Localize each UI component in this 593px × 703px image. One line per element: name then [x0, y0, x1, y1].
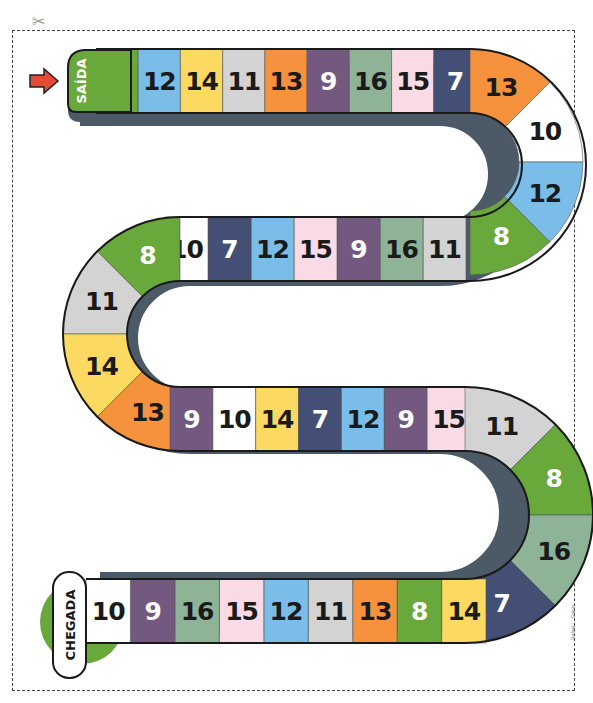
- space-number: 9: [397, 405, 413, 434]
- space-number: 9: [320, 67, 336, 96]
- space-number: 14: [185, 67, 218, 96]
- space-number: 8: [545, 464, 561, 493]
- space-number: 11: [314, 597, 347, 626]
- space-number: 7: [312, 405, 328, 434]
- space-number: 15: [225, 597, 258, 626]
- space-number: 12: [528, 179, 561, 208]
- board-space: 14: [256, 387, 299, 451]
- board-space: 11: [223, 49, 265, 113]
- board-space: 16: [349, 49, 391, 113]
- space-number: 16: [537, 537, 570, 566]
- space-number: 15: [432, 405, 465, 434]
- board-space: 15: [392, 49, 434, 113]
- space-number: 13: [359, 597, 392, 626]
- board-space: 9: [307, 49, 349, 113]
- space-number: 13: [270, 67, 303, 96]
- board-space: 10: [86, 579, 130, 643]
- space-number: 12: [256, 235, 289, 264]
- space-number: 16: [354, 67, 387, 96]
- board-space: 11: [308, 579, 353, 643]
- board-space: 15: [294, 217, 337, 281]
- board-space: 14: [180, 49, 222, 113]
- space-number: 13: [131, 398, 164, 427]
- board-space: 16: [380, 217, 423, 281]
- space-number: 12: [270, 597, 303, 626]
- board-space: 9: [130, 579, 175, 643]
- space-number: 15: [299, 235, 332, 264]
- board-space: 9: [170, 387, 213, 451]
- start-cap: SAÍDA: [68, 50, 131, 122]
- space-number: 9: [144, 597, 160, 626]
- board-space: 15: [427, 387, 470, 451]
- space-number: 14: [85, 352, 118, 381]
- board-space: 13: [353, 579, 397, 643]
- space-number: 7: [447, 67, 463, 96]
- space-number: 11: [485, 412, 518, 441]
- game-board: 8121411139161571310128111691512710811141…: [0, 0, 593, 703]
- board-space: 9: [337, 217, 380, 281]
- space-number: 12: [347, 405, 380, 434]
- board-space: 12: [264, 579, 308, 643]
- space-number: 8: [139, 241, 155, 270]
- right-arrow-icon: [30, 69, 58, 93]
- space-number: 16: [385, 235, 418, 264]
- space-number: 7: [221, 235, 237, 264]
- finish-cap: CHEGADA: [53, 572, 86, 678]
- space-number: 11: [227, 67, 260, 96]
- space-number: 16: [181, 597, 214, 626]
- space-number: 10: [218, 405, 251, 434]
- space-number: 11: [85, 287, 118, 316]
- board-space: 7: [434, 49, 476, 113]
- board-space: 16: [175, 579, 219, 643]
- space-number: 7: [493, 589, 509, 618]
- board-space: 12: [138, 49, 180, 113]
- space-number: 10: [528, 117, 561, 146]
- space-number: 8: [411, 597, 427, 626]
- space-number: 14: [261, 405, 294, 434]
- board-space: 14: [442, 579, 486, 643]
- space-number: 9: [350, 235, 366, 264]
- space-number: 11: [428, 235, 461, 264]
- board-space: 12: [251, 217, 294, 281]
- board-space: 10: [213, 387, 256, 451]
- board-space: 7: [299, 387, 342, 451]
- start-label: SAÍDA: [74, 58, 89, 103]
- board-space: 15: [219, 579, 263, 643]
- space-number: 13: [485, 73, 518, 102]
- board-space: 13: [265, 49, 307, 113]
- space-number: 9: [183, 405, 199, 434]
- track-shadow: [80, 94, 531, 604]
- board-space: 8: [397, 579, 442, 643]
- space-number: 14: [447, 597, 480, 626]
- finish-label: CHEGADA: [63, 590, 78, 661]
- board-space: 11: [423, 217, 466, 281]
- board-space: 12: [341, 387, 384, 451]
- board-space: 9: [384, 387, 427, 451]
- space-number: 15: [396, 67, 429, 96]
- space-number: 12: [143, 67, 176, 96]
- space-number: 10: [92, 597, 125, 626]
- space-number: 8: [493, 222, 509, 251]
- board-space: 7: [208, 217, 251, 281]
